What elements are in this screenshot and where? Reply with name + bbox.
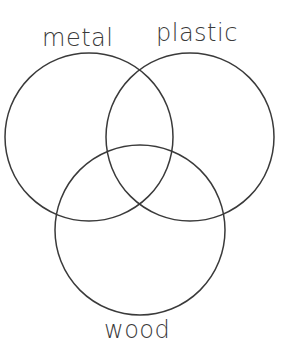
label-metal: metal xyxy=(42,26,113,50)
label-plastic: plastic xyxy=(156,21,238,45)
label-wood: wood xyxy=(104,318,170,342)
circle-wood xyxy=(55,145,225,315)
circle-metal xyxy=(5,53,173,221)
circle-plastic xyxy=(106,53,274,221)
